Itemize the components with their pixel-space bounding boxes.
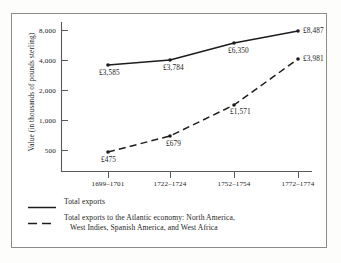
y-tick-label-2000: 2,000 [22,87,56,95]
series-line-atlantic-economy [108,59,298,152]
y-tick-label-1000: 1,000 [22,117,56,125]
data-label-atlantic-1722: £679 [166,139,181,148]
legend-label-atlantic-economy: Total exports to the Atlantic economy: N… [64,213,235,234]
legend-label-atlantic-line1: Total exports to the Atlantic economy: N… [64,213,235,222]
legend-item-atlantic-economy: Total exports to the Atlantic economy: N… [28,213,318,234]
series-line-total-exports [108,31,298,65]
x-tick-label-1699-1701: 1699–1701 [75,180,141,188]
legend-label-total-exports: Total exports [64,197,105,208]
data-label-atlantic-1699: £475 [101,155,116,164]
chart-legend: Total exports Total exports to the Atlan… [28,197,318,239]
data-label-atlantic-1752: £1,571 [230,107,251,116]
x-tick-label-1752-1754: 1752–1754 [201,180,267,188]
legend-item-total-exports: Total exports [28,197,318,208]
y-tick-label-4000: 4,000 [22,57,56,65]
chart-page: Value (in thousands of pounds sterling) … [0,0,341,263]
plot-area: Value (in thousands of pounds sterling) … [0,0,341,263]
y-tick-label-500: 500 [22,147,56,155]
data-label-total-exports-1722: £3,784 [163,63,184,72]
legend-label-atlantic-line2: West Indies, Spanish America, and West A… [70,223,235,234]
legend-key-solid-line-icon [28,198,58,207]
y-tick-label-8000: 8,000 [22,27,56,35]
series-markers-total-exports [106,29,300,67]
x-axis-ticks [109,172,299,179]
data-label-total-exports-1699: £3,585 [99,68,120,77]
x-tick-label-1722-1724: 1722–1724 [137,180,203,188]
legend-key-dashed-line-icon [28,214,58,223]
data-label-total-exports-1772: £8,487 [303,26,324,35]
x-tick-label-1772-1774: 1772–1774 [265,180,331,188]
y-axis-ticks [62,31,69,151]
series-markers-atlantic-economy [106,57,300,154]
data-label-atlantic-1772: £3,981 [303,54,324,63]
data-label-total-exports-1752: £6,350 [228,46,249,55]
